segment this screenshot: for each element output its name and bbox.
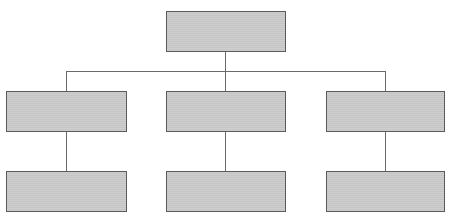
level2-node-left[interactable] — [6, 91, 127, 132]
connector-to-left — [66, 71, 67, 91]
level3-node-middle[interactable] — [166, 171, 286, 212]
level2-node-right[interactable] — [326, 91, 445, 132]
connector-middle-child — [225, 131, 226, 171]
connector-to-middle — [225, 71, 226, 91]
connector-root-down — [225, 51, 226, 71]
connector-left-child — [66, 131, 67, 171]
root-node[interactable] — [166, 11, 286, 52]
connector-right-child — [385, 131, 386, 171]
level3-node-right[interactable] — [326, 171, 445, 212]
level3-node-left[interactable] — [6, 171, 127, 212]
connector-to-right — [385, 71, 386, 91]
level2-node-middle[interactable] — [166, 91, 286, 132]
connector-horizontal-bus — [66, 71, 386, 72]
